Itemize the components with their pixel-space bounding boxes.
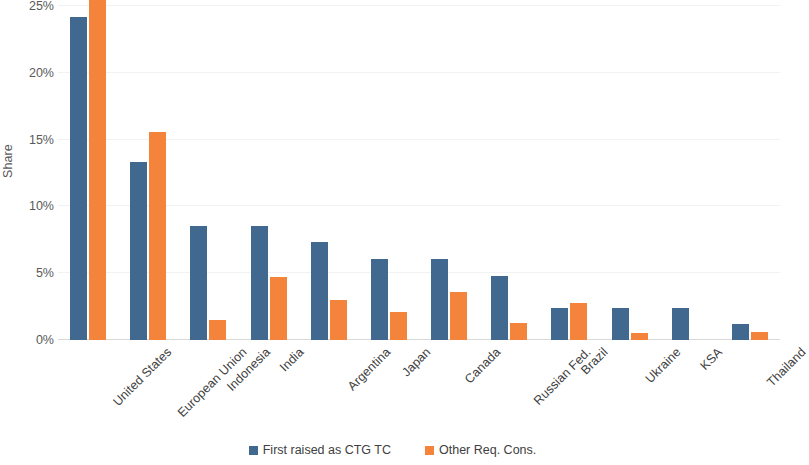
bar: [431, 259, 448, 340]
bar: [612, 308, 629, 340]
x-axis-label-slot: Japan: [359, 341, 419, 433]
bar: [450, 292, 467, 340]
bar: [251, 226, 268, 340]
bar: [491, 276, 508, 340]
legend-item: First raised as CTG TC: [249, 443, 391, 457]
bar: [89, 0, 106, 340]
bar-group: [660, 6, 720, 340]
legend-label: First raised as CTG TC: [263, 443, 391, 457]
x-axis-label-slot: Brazil: [539, 341, 599, 433]
x-axis-label-slot: KSA: [660, 341, 720, 433]
x-axis-label-slot: Russian Fed.: [479, 341, 539, 433]
x-axis-label-slot: India: [239, 341, 299, 433]
bar-group: [600, 6, 660, 340]
bar-group: [239, 6, 299, 340]
bar-group: [479, 6, 539, 340]
bar-group: [539, 6, 599, 340]
bar: [311, 242, 328, 340]
y-axis-tick-label: 10%: [2, 200, 54, 213]
bar: [371, 259, 388, 340]
bar: [130, 162, 147, 340]
bar-group: [299, 6, 359, 340]
x-axis-label-slot: Canada: [419, 341, 479, 433]
bar: [149, 132, 166, 340]
bar-group: [58, 6, 118, 340]
y-axis-tick-label: 5%: [2, 267, 54, 280]
bar: [732, 324, 749, 340]
bar: [631, 333, 648, 340]
x-axis-label-slot: Indonesia: [178, 341, 238, 433]
bar: [510, 323, 527, 340]
x-axis-category-labels: United StatesEuropean UnionIndonesiaIndi…: [58, 341, 780, 433]
x-axis-label-slot: Thailand: [720, 341, 780, 433]
bar-group: [118, 6, 178, 340]
bar: [570, 303, 587, 340]
bar: [390, 312, 407, 340]
legend-swatch-icon: [249, 446, 258, 455]
plot-area: [58, 6, 780, 340]
bar-group: [359, 6, 419, 340]
x-axis-category-label: Thailand: [764, 345, 808, 389]
bar: [330, 300, 347, 340]
bar-group: [178, 6, 238, 340]
y-axis-tick-label: 0%: [2, 334, 54, 347]
x-axis-label-slot: Ukraine: [600, 341, 660, 433]
x-axis-label-slot: European Union: [118, 341, 178, 433]
bar-group: [720, 6, 780, 340]
x-axis-label-slot: United States: [58, 341, 118, 433]
bar: [190, 226, 207, 340]
bar: [551, 308, 568, 340]
bar-group: [419, 6, 479, 340]
y-axis-tick-label: 15%: [2, 133, 54, 146]
bar: [672, 308, 689, 340]
legend-item: Other Req. Cons.: [425, 443, 536, 457]
legend-label: Other Req. Cons.: [439, 443, 536, 457]
bar: [209, 320, 226, 340]
y-axis-tick-label: 25%: [2, 0, 54, 12]
y-axis-tick-labels: 25%20%15%10%5%0%: [0, 6, 54, 340]
bar: [270, 277, 287, 340]
bar-groups: [58, 6, 780, 340]
chart-legend: First raised as CTG TCOther Req. Cons.: [0, 443, 785, 457]
bar: [70, 17, 87, 340]
x-axis-label-slot: Argentina: [299, 341, 359, 433]
y-axis-tick-label: 20%: [2, 67, 54, 80]
legend-swatch-icon: [425, 446, 434, 455]
bar: [751, 332, 768, 340]
